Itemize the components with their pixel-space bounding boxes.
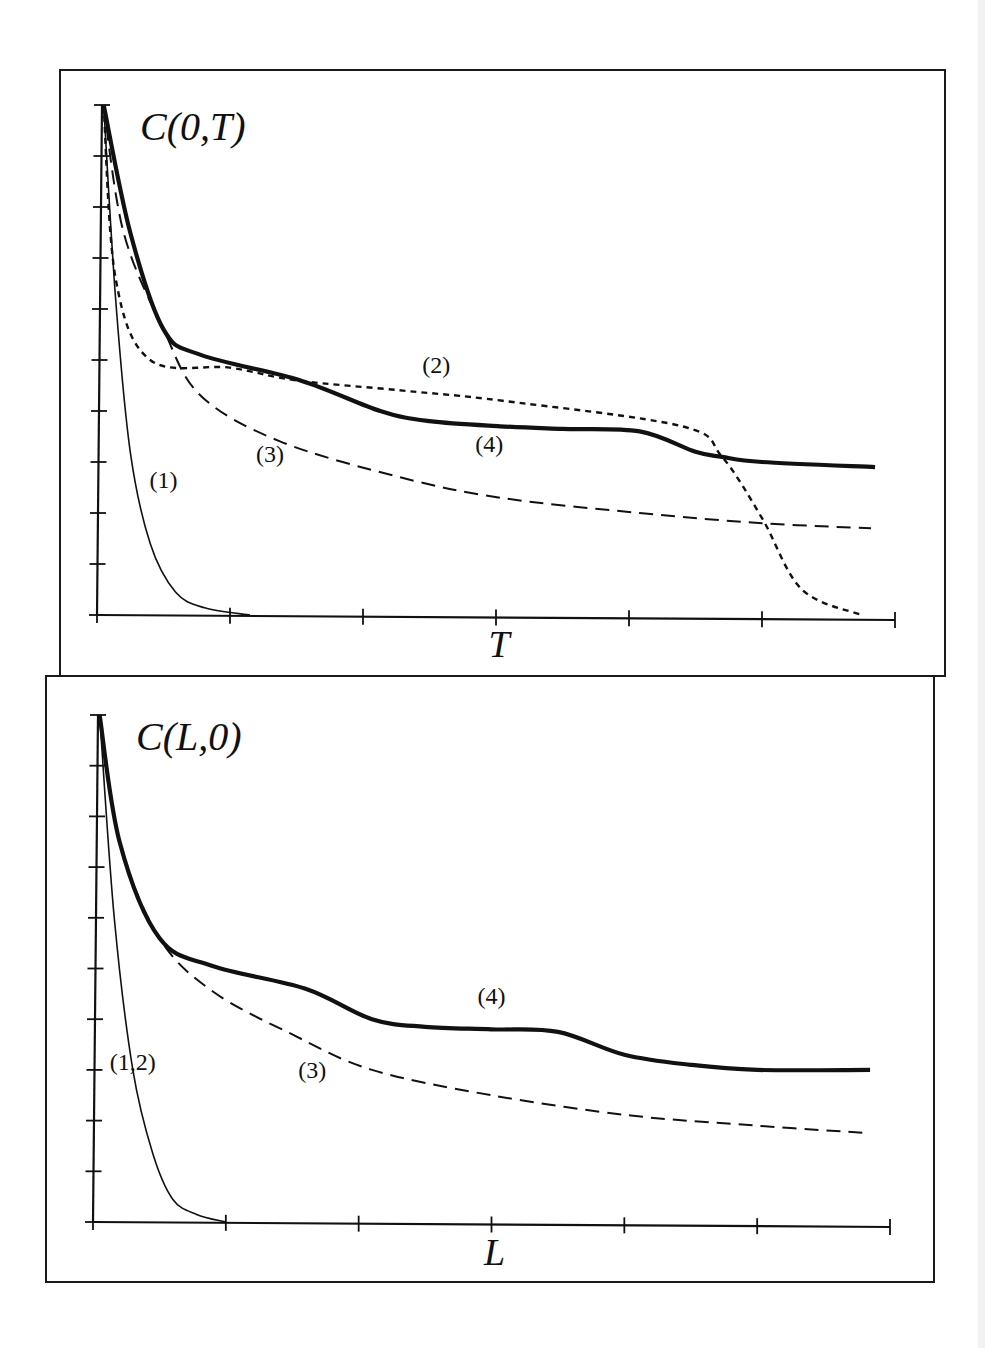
- series-line-4: [104, 105, 875, 467]
- series-label: (3): [256, 441, 284, 467]
- x-axis-label: L: [483, 1231, 505, 1273]
- series-line-12: [100, 715, 226, 1222]
- series-label: (4): [475, 431, 503, 457]
- series-label: (3): [298, 1057, 326, 1083]
- series-label: (1,2): [110, 1049, 156, 1075]
- figure-canvas: (1)(2)(3)(4)C(0,T)T (1,2)(3)(4)C(L,0)L: [0, 0, 985, 1348]
- series-line-3: [104, 105, 871, 528]
- series-label: (4): [478, 983, 506, 1009]
- series-label: (1): [150, 467, 178, 493]
- series-label: (2): [422, 352, 450, 378]
- chart-c-0-t: (1)(2)(3)(4)C(0,T)T: [89, 104, 895, 665]
- chart-title: C(0,T): [140, 104, 246, 149]
- series-line-4: [100, 715, 870, 1070]
- chart-title: C(L,0): [136, 714, 242, 759]
- x-axis-label: T: [488, 623, 512, 665]
- chart-c-l-0: (1,2)(3)(4)C(L,0)L: [85, 714, 890, 1273]
